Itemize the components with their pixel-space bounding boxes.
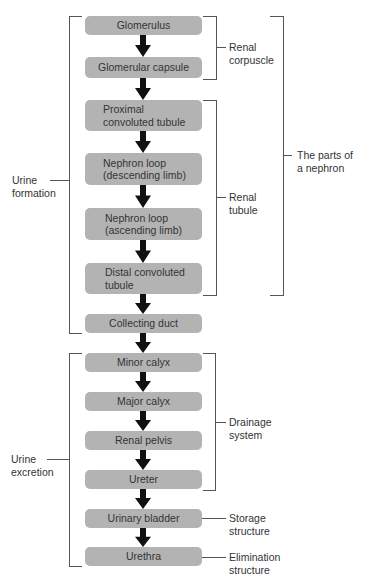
arrow-down-icon: [135, 372, 151, 392]
step-major-calyx: Major calyx: [85, 392, 202, 411]
label-line1: Urine: [11, 453, 54, 466]
step-urinary-bladder: Urinary bladder: [85, 509, 202, 528]
label-parts-of-nephron: The parts of a nephron: [297, 149, 353, 174]
arrow-down-icon: [135, 131, 151, 153]
step-label: Urethra: [126, 550, 161, 563]
step-label: Major calyx: [117, 395, 170, 408]
bracket-tick: [283, 155, 292, 156]
step-nephron-loop-descending: Nephron loop(descending limb): [85, 153, 202, 185]
bracket-urine-excretion: [69, 353, 82, 567]
step-label: Collecting duct: [109, 317, 178, 330]
step-label-line2: convoluted tubule: [103, 116, 185, 129]
bracket-tick: [216, 197, 226, 198]
label-line2: excretion: [11, 466, 54, 479]
step-label-line2: tubule: [105, 279, 185, 292]
bracket-tick: [216, 47, 226, 48]
step-label: Glomerular capsule: [98, 61, 189, 74]
arrow-down-icon: [135, 411, 151, 431]
step-nephron-loop-ascending: Nephron loop(ascending limb): [85, 208, 202, 240]
step-label: Urinary bladder: [108, 512, 180, 525]
label-line1: Storage: [229, 512, 270, 525]
bracket-urine-formation: [69, 16, 82, 334]
arrow-down-icon: [135, 185, 151, 208]
arrow-down-icon: [135, 528, 151, 547]
step-label: Minor calyx: [117, 356, 170, 369]
arrow-down-icon: [135, 78, 151, 100]
arrow-down-icon: [135, 450, 151, 470]
label-line2: tubule: [229, 204, 258, 217]
label-line2: formation: [12, 187, 56, 200]
step-glomerulus: Glomerulus: [85, 16, 202, 35]
label-line1: Urine: [12, 174, 56, 187]
label-renal-tubule: Renal tubule: [229, 191, 258, 216]
label-line2: a nephron: [297, 162, 353, 175]
step-minor-calyx: Minor calyx: [85, 353, 202, 372]
step-label-line1: Proximal: [103, 103, 185, 116]
step-label-line1: Nephron loop: [103, 157, 186, 170]
label-line1: The parts of: [297, 149, 353, 162]
label-urine-excretion: Urine excretion: [11, 453, 54, 478]
arrow-down-icon: [135, 294, 151, 314]
step-collecting-duct: Collecting duct: [85, 314, 202, 333]
label-line2: corpuscle: [229, 54, 274, 67]
label-line1: Renal: [229, 191, 258, 204]
arrow-down-icon: [135, 333, 151, 353]
step-urethra: Urethra: [85, 547, 202, 566]
step-proximal-convoluted-tubule: Proximalconvoluted tubule: [85, 100, 202, 131]
step-ureter: Ureter: [85, 470, 202, 489]
label-drainage-system: Drainage system: [229, 416, 272, 441]
arrow-down-icon: [135, 35, 151, 57]
label-line2: system: [229, 429, 272, 442]
step-glomerular-capsule: Glomerular capsule: [85, 57, 202, 78]
bracket-renal-corpuscle: [203, 16, 217, 80]
step-label-line1: Distal convoluted: [105, 266, 185, 279]
label-line2: structure: [229, 564, 280, 577]
label-line2: structure: [229, 525, 270, 538]
label-urine-formation: Urine formation: [12, 174, 56, 199]
arrow-down-icon: [135, 240, 151, 263]
connector-storage: [202, 518, 226, 519]
connector-elimination: [202, 557, 226, 558]
bracket-renal-tubule: [203, 100, 217, 296]
label-line1: Drainage: [229, 416, 272, 429]
step-distal-convoluted-tubule: Distal convolutedtubule: [85, 263, 202, 294]
step-renal-pelvis: Renal pelvis: [85, 431, 202, 450]
label-line1: Elimination: [229, 551, 280, 564]
bracket-parts-of-nephron: [270, 16, 284, 296]
step-label: Glomerulus: [117, 19, 171, 32]
step-label-line1: Nephron loop: [105, 212, 182, 225]
step-label-line2: (ascending limb): [105, 224, 182, 237]
step-label-line2: (descending limb): [103, 169, 186, 182]
label-elimination-structure: Elimination structure: [229, 551, 280, 576]
label-storage-structure: Storage structure: [229, 512, 270, 537]
label-renal-corpuscle: Renal corpuscle: [229, 41, 274, 66]
bracket-tick: [215, 422, 226, 423]
label-line1: Renal: [229, 41, 274, 54]
arrow-down-icon: [135, 489, 151, 509]
step-label: Renal pelvis: [115, 434, 172, 447]
step-label: Ureter: [129, 473, 158, 486]
